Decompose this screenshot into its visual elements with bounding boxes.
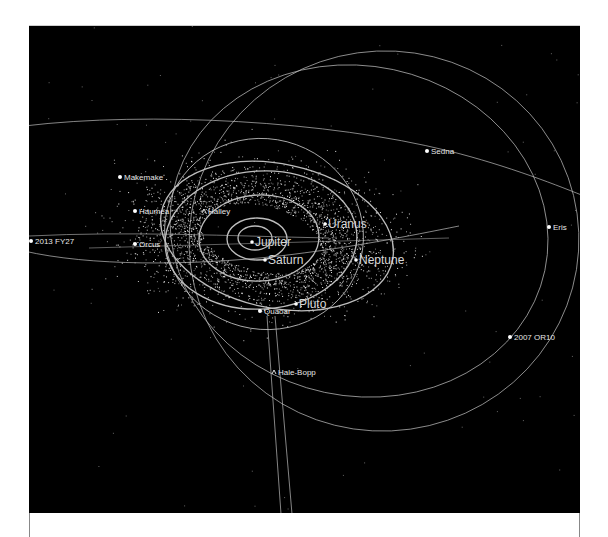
orbit-sedna <box>29 119 580 198</box>
dwarf-eris[interactable]: Eris <box>547 223 567 232</box>
dwarf-marker-icon <box>118 175 122 179</box>
dwarf-label: Orcus <box>139 240 160 249</box>
dwarf-label: 2013 FY27 <box>35 237 75 246</box>
comet-marker-icon <box>202 209 206 213</box>
dwarf-quaoar[interactable]: Quaoar <box>258 307 291 316</box>
planet-label: Saturn <box>268 253 303 267</box>
comet-label: Halley <box>208 207 230 216</box>
orbit-2007-or10 <box>139 30 579 432</box>
bottom-panel <box>29 513 580 537</box>
dwarf-2013-fy27[interactable]: 2013 FY27 <box>29 237 75 246</box>
planet-label: Jupiter <box>255 235 291 249</box>
planet-marker-icon <box>250 240 254 244</box>
comet-marker-icon <box>272 370 276 374</box>
dwarf-label: Quaoar <box>264 307 291 316</box>
planet-label: Uranus <box>328 217 367 231</box>
planet-uranus[interactable]: Uranus <box>323 217 366 231</box>
dwarf-label: Sedna <box>431 147 455 156</box>
planet-label: Pluto <box>299 297 327 311</box>
orbit-hale-bopp-a <box>267 316 281 514</box>
dwarf-marker-icon <box>29 239 33 243</box>
dwarf-label: Eris <box>553 223 567 232</box>
dwarf-marker-icon <box>508 335 512 339</box>
dwarf-makemake[interactable]: Makemake <box>118 173 164 182</box>
orbit-hale-bopp-b <box>275 316 292 514</box>
dwarf-2007-or10[interactable]: 2007 OR10 <box>508 333 555 342</box>
outer-orbits <box>29 26 580 514</box>
kuiper-belt-dots <box>48 26 579 510</box>
planet-marker-icon <box>294 302 298 306</box>
orbit-diagram: JupiterSaturnUranusNeptunePlutoMakemakeH… <box>29 26 580 514</box>
dwarf-haumea[interactable]: Haumea <box>133 207 170 216</box>
planet-pluto[interactable]: Pluto <box>294 297 326 311</box>
comet-label: Hale-Bopp <box>278 368 316 377</box>
planet-marker-icon <box>263 258 267 262</box>
planet-saturn[interactable]: Saturn <box>263 253 303 267</box>
comet-halley[interactable]: Halley <box>202 207 230 216</box>
planet-label: Neptune <box>359 253 405 267</box>
planet-marker-icon <box>354 258 358 262</box>
orbit-canvas[interactable]: JupiterSaturnUranusNeptunePlutoMakemakeH… <box>29 25 580 514</box>
planet-marker-icon <box>323 222 327 226</box>
dwarf-sedna[interactable]: Sedna <box>425 147 455 156</box>
orbit-halley <box>138 111 391 358</box>
dwarf-label: Haumea <box>139 207 170 216</box>
dwarf-marker-icon <box>547 225 551 229</box>
planet-neptune[interactable]: Neptune <box>354 253 404 267</box>
dwarf-marker-icon <box>425 149 429 153</box>
comet-hale-bopp[interactable]: Hale-Bopp <box>272 368 316 377</box>
dwarf-marker-icon <box>133 242 137 246</box>
dwarf-marker-icon <box>133 209 137 213</box>
dwarf-marker-icon <box>258 309 262 313</box>
planet-jupiter[interactable]: Jupiter <box>250 235 291 249</box>
dwarf-label: Makemake <box>124 173 164 182</box>
dwarf-label: 2007 OR10 <box>514 333 555 342</box>
dwarf-orcus[interactable]: Orcus <box>133 240 160 249</box>
